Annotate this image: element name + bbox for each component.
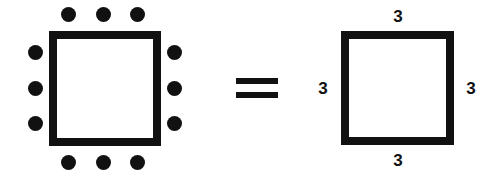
dot-right-1 [167,45,182,60]
dot-left-3 [28,116,43,131]
square-outline-left [49,31,161,146]
dot-left-1 [28,45,43,60]
dot-right-3 [167,116,182,131]
dot-left-2 [28,81,43,96]
dot-bottom-2 [96,155,111,170]
side-label-bottom: 3 [389,152,407,169]
equals-bar-lower [236,92,278,98]
dot-bottom-3 [130,155,145,170]
dot-top-2 [96,7,111,22]
figure-canvas: 3 3 3 3 [0,0,497,176]
dot-right-2 [167,81,182,96]
side-label-top: 3 [389,8,407,25]
labeled-square-figure: 3 3 3 3 [300,0,497,176]
dot-top-3 [130,7,145,22]
dot-top-1 [61,7,76,22]
dot-square-figure [0,0,200,176]
side-label-left: 3 [314,80,332,97]
dot-bottom-1 [61,155,76,170]
square-outline-right [341,31,454,145]
equals-bar-upper [236,78,278,84]
equals-sign [236,78,278,98]
side-label-right: 3 [462,80,480,97]
